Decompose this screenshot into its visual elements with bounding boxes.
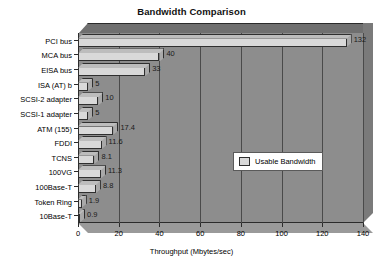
category-tick xyxy=(74,40,78,41)
bar-row: 40 xyxy=(78,48,164,61)
bar-row: 11.6 xyxy=(78,136,107,149)
category-tick xyxy=(74,98,78,99)
gridline xyxy=(159,33,160,223)
x-axis-title: Throughput (Mbytes/sec) xyxy=(0,247,383,256)
gridline xyxy=(322,33,323,223)
category-tick xyxy=(74,54,78,55)
x-axis-tick-label: 20 xyxy=(107,229,131,238)
bar-value-label: 11.6 xyxy=(109,137,123,146)
bar-row: 8.8 xyxy=(78,180,101,193)
category-label: TCNS xyxy=(0,154,72,163)
x-axis-tick xyxy=(78,223,79,227)
bar-value-label: 132 xyxy=(354,35,367,44)
category-label: ATM (155) xyxy=(0,125,72,134)
bar-value-label: 8.1 xyxy=(101,152,111,161)
x-axis-tick-label: 0 xyxy=(66,229,90,238)
bandwidth-comparison-chart: Bandwidth Comparison 1324033510517.411.6… xyxy=(0,0,383,267)
x-axis-tick xyxy=(241,223,242,227)
bar-top-face xyxy=(78,136,107,141)
bar-front-face xyxy=(78,199,82,208)
x-axis-tick xyxy=(282,223,283,227)
bar-front-face xyxy=(78,184,96,193)
x-axis-tick-label: 80 xyxy=(229,229,253,238)
x-axis-tick-label: 120 xyxy=(310,229,334,238)
bar-row: 5 xyxy=(78,107,93,120)
bar-top-face xyxy=(78,122,118,127)
bar-row: 1.9 xyxy=(78,195,87,208)
bar-front-face xyxy=(78,126,113,135)
bar-row: 33 xyxy=(78,63,150,76)
legend-swatch-usable-bandwidth xyxy=(239,157,250,166)
x-axis-tick xyxy=(159,223,160,227)
category-label: 100Base-T xyxy=(0,183,72,192)
category-tick xyxy=(74,201,78,202)
category-label: PCI bus xyxy=(0,37,72,46)
bar-top-face xyxy=(78,48,164,53)
category-label: 100VG xyxy=(0,168,72,177)
plot-area: 1324033510517.411.68.111.38.81.90.9 xyxy=(78,33,363,223)
x-axis-tick-label: 40 xyxy=(147,229,171,238)
bar-top-face xyxy=(78,63,150,68)
bar-value-label: 1.9 xyxy=(89,196,99,205)
bar-row: 0.9 xyxy=(78,209,85,222)
category-label: ISA (AT) b xyxy=(0,81,72,90)
bar-value-label: 10 xyxy=(105,93,113,102)
category-tick xyxy=(74,142,78,143)
category-tick xyxy=(74,215,78,216)
bar-value-label: 17.4 xyxy=(120,123,135,132)
bar-front-face xyxy=(78,169,101,178)
bar-front-face xyxy=(78,155,94,164)
x-axis-tick xyxy=(200,223,201,227)
bar-value-label: 40 xyxy=(166,49,174,58)
category-tick xyxy=(74,157,78,158)
bar-value-label: 8.8 xyxy=(103,181,113,190)
category-tick xyxy=(74,128,78,129)
bar-value-label: 5 xyxy=(95,108,99,117)
bar-front-face xyxy=(78,38,347,47)
gridline xyxy=(200,33,201,223)
bar-row: 8.1 xyxy=(78,151,99,164)
category-label: 10Base-T xyxy=(0,212,72,221)
bar-value-label: 11.3 xyxy=(108,166,122,175)
bar-front-face xyxy=(78,96,98,105)
gridline xyxy=(282,33,283,223)
bar-top-face xyxy=(78,34,352,39)
x-axis-tick-label: 140 xyxy=(351,229,375,238)
bar-row: 132 xyxy=(78,34,352,47)
bar-front-face xyxy=(78,140,102,149)
bar-value-label: 5 xyxy=(95,79,99,88)
chart-title: Bandwidth Comparison xyxy=(0,6,383,17)
bar-row: 11.3 xyxy=(78,165,106,178)
category-tick xyxy=(74,171,78,172)
gridline xyxy=(241,33,242,223)
bar-row: 10 xyxy=(78,92,103,105)
bar-row: 17.4 xyxy=(78,122,118,135)
x-axis-tick-label: 100 xyxy=(270,229,294,238)
category-tick xyxy=(74,69,78,70)
category-label: Token Ring xyxy=(0,198,72,207)
x-axis-tick xyxy=(322,223,323,227)
category-label: SCSI-1 adapter xyxy=(0,110,72,119)
bar-value-label: 0.9 xyxy=(87,210,97,219)
gridline xyxy=(363,33,364,223)
legend: Usable Bandwidth xyxy=(233,152,323,171)
category-label: MCA bus xyxy=(0,51,72,60)
category-tick xyxy=(74,84,78,85)
plot-right-face xyxy=(363,23,373,223)
x-axis-tick-label: 60 xyxy=(188,229,212,238)
bar-front-face xyxy=(78,213,80,222)
bar-front-face xyxy=(78,82,88,91)
bar-front-face xyxy=(78,52,159,61)
x-axis-tick xyxy=(363,223,364,227)
category-label: FDDI xyxy=(0,139,72,148)
category-label: EISA bus xyxy=(0,66,72,75)
category-tick xyxy=(74,113,78,114)
category-label: SCSI-2 adapter xyxy=(0,95,72,104)
category-tick xyxy=(74,186,78,187)
bar-value-label: 33 xyxy=(152,64,160,73)
legend-label: Usable Bandwidth xyxy=(255,157,315,166)
bar-front-face xyxy=(78,111,88,120)
bar-front-face xyxy=(78,67,145,76)
x-axis-tick xyxy=(119,223,120,227)
bar-row: 5 xyxy=(78,78,93,91)
